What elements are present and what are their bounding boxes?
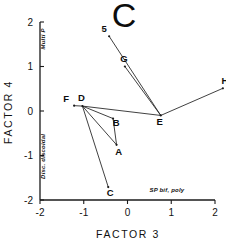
factor-scatter-plot: -2-1012210-1-2 Multi PDisc. discoidalSP … xyxy=(0,0,226,242)
data-point-label-C: C xyxy=(107,187,114,198)
data-point-label-A: A xyxy=(115,146,122,157)
connector-D-A xyxy=(82,106,116,145)
data-point-label-E: E xyxy=(157,116,163,127)
data-point-label-G: G xyxy=(120,53,127,64)
connector-H-E xyxy=(161,88,223,115)
connector-5-E xyxy=(109,36,161,115)
connector-G-E xyxy=(125,67,161,116)
chart-canvas: -2-1012210-1-2 Multi PDisc. discoidalSP … xyxy=(0,0,226,242)
panel-title: C xyxy=(112,0,137,34)
y-tick-label: 1 xyxy=(27,61,33,72)
y-tick-label: -2 xyxy=(24,195,33,206)
series-group xyxy=(73,35,224,188)
axes-group: -2-1012210-1-2 xyxy=(24,17,218,219)
x-tick-label: -1 xyxy=(79,207,88,218)
data-point-H xyxy=(222,87,224,89)
data-point-label-H: H xyxy=(221,75,226,86)
data-point-5 xyxy=(108,35,110,37)
y-axis-title: FACTOR 4 xyxy=(2,80,14,144)
x-tick-label: -2 xyxy=(36,207,45,218)
x-tick-label: 1 xyxy=(168,207,174,218)
x-tick-label: 0 xyxy=(125,207,131,218)
data-point-label-F: F xyxy=(63,93,69,104)
x-axis-title: FACTOR 3 xyxy=(96,228,160,240)
data-point-F xyxy=(73,105,75,107)
y-axis-positive-pole: Multi P xyxy=(40,28,46,50)
data-point-D xyxy=(81,105,83,107)
data-point-G xyxy=(124,65,126,67)
y-axis-negative-pole: Disc. discoidal xyxy=(40,134,46,179)
labels-group: Multi PDisc. discoidalSP bif, poly5GHFDE… xyxy=(40,23,226,198)
data-point-label-B: B xyxy=(113,117,120,128)
x-tick-label: 2 xyxy=(212,207,218,218)
y-tick-label: -1 xyxy=(24,150,33,161)
connector-D-C xyxy=(82,106,108,187)
y-tick-label: 2 xyxy=(27,17,33,28)
y-tick-label: 0 xyxy=(27,106,33,117)
data-point-label-D: D xyxy=(78,92,85,103)
x-axis-positive-pole: SP bif, poly xyxy=(149,187,184,193)
data-point-label-5: 5 xyxy=(101,23,107,34)
